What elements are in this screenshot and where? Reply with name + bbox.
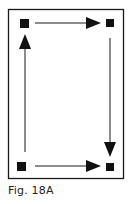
arrow-right-bottom-icon — [35, 160, 101, 172]
node-top-left — [20, 19, 29, 28]
arrow-down-icon — [104, 38, 116, 157]
arrow-right-icon — [35, 17, 101, 29]
frame-border — [9, 10, 124, 179]
figure-diagram — [0, 0, 133, 204]
arrow-up-icon — [19, 34, 31, 152]
figure-caption: Fig. 18A — [8, 184, 54, 197]
node-bottom-right — [106, 163, 114, 171]
node-top-right — [106, 19, 114, 27]
node-bottom-left — [17, 162, 26, 171]
